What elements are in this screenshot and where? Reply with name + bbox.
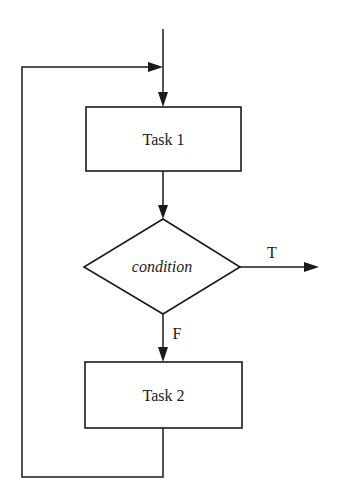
condition-label: condition — [132, 258, 192, 275]
true-branch-label: T — [267, 244, 277, 261]
task1-label: Task 1 — [143, 131, 185, 148]
arrowhead-into-task1 — [158, 92, 168, 107]
condition-node: condition — [84, 219, 240, 314]
flowchart-diagram: Task 1 condition T F Task 2 — [0, 0, 339, 503]
arrowhead-into-condition — [158, 205, 168, 219]
arrowhead-into-task2 — [158, 347, 168, 362]
task2-label: Task 2 — [143, 387, 185, 404]
false-branch-label: F — [173, 325, 182, 342]
task2-node: Task 2 — [85, 362, 242, 428]
task1-node: Task 1 — [86, 107, 241, 171]
arrowhead-loop-merge — [148, 62, 163, 72]
arrowhead-true-exit — [304, 262, 319, 272]
